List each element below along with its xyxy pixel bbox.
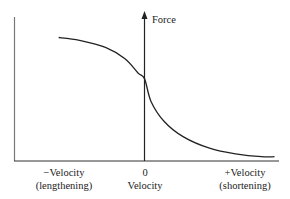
x-tick-label-line2: (shortening) [200,179,290,192]
x-tick-label-line2: Velocity [100,179,190,192]
force-axis-arrow-icon [142,11,148,19]
y-axis-label: Force [152,13,176,26]
x-tick-zero-velocity: 0 Velocity [100,166,190,192]
x-tick-label-line1: 0 [100,166,190,179]
force-velocity-curve [59,38,275,157]
x-tick-positive-velocity: +Velocity (shortening) [200,166,290,192]
x-tick-label-line1: −Velocity [19,166,109,179]
x-tick-label-line2: (lengthening) [19,179,109,192]
x-tick-label-line1: +Velocity [200,166,290,179]
x-tick-negative-velocity: −Velocity (lengthening) [19,166,109,192]
